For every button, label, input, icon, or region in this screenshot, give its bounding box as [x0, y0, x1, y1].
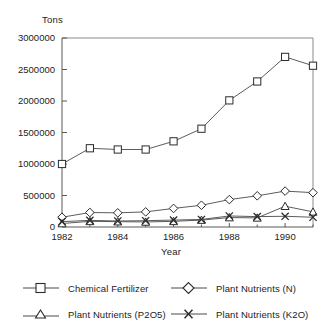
- x-tick-label: 1984: [107, 231, 128, 240]
- legend-item-chemical-fertilizer: Chemical Fertilizer: [0, 275, 160, 301]
- y-tick-label: 1000000: [18, 158, 55, 169]
- legend-label: Chemical Fertilizer: [68, 283, 149, 294]
- x-tick-label: 1982: [51, 231, 72, 240]
- y-tick-label: 3000000: [18, 32, 55, 43]
- diamond-marker-icon: [170, 280, 208, 296]
- x-tick-label: 1988: [219, 231, 240, 240]
- x-tick-label: 1986: [163, 231, 184, 240]
- cross-marker-icon: [170, 306, 208, 322]
- triangle-marker-icon: [22, 306, 60, 322]
- legend-item-plant-nutrients-k2o: Plant Nutrients (K2O): [160, 301, 324, 327]
- chart-legend: Chemical Fertilizer Plant Nutrients (N) …: [0, 275, 324, 331]
- series-cross: [58, 212, 316, 225]
- x-axis-title: Year: [0, 246, 324, 257]
- clipped-header-text: [96, 0, 256, 3]
- square-marker-icon: [22, 280, 60, 296]
- series-group: [58, 53, 318, 227]
- axes-group: 0500000100000015000002000000250000030000…: [18, 32, 313, 240]
- legend-row-2: Plant Nutrients (P2O5) Plant Nutrients (…: [0, 301, 324, 327]
- y-tick-label: 2000000: [18, 95, 55, 106]
- legend-item-plant-nutrients-p2o5: Plant Nutrients (P2O5): [0, 301, 160, 327]
- fertilizer-line-chart: Tons 05000001000000150000020000002500000…: [0, 0, 324, 331]
- legend-item-plant-nutrients-n: Plant Nutrients (N): [160, 275, 324, 301]
- y-tick-label: 2500000: [18, 64, 55, 75]
- series-triangle: [58, 202, 317, 227]
- plot-area: 0500000100000015000002000000250000030000…: [0, 0, 324, 240]
- legend-label: Plant Nutrients (N): [216, 283, 296, 294]
- y-tick-label: 500000: [23, 190, 55, 201]
- legend-label: Plant Nutrients (K2O): [216, 309, 308, 320]
- y-axis-title: Tons: [42, 14, 63, 25]
- legend-row-1: Chemical Fertilizer Plant Nutrients (N): [0, 275, 324, 301]
- x-axis-title-text: Year: [161, 246, 181, 257]
- x-tick-label: 1990: [275, 231, 296, 240]
- legend-label: Plant Nutrients (P2O5): [68, 309, 166, 320]
- y-tick-label: 1500000: [18, 127, 55, 138]
- series-square: [58, 53, 316, 167]
